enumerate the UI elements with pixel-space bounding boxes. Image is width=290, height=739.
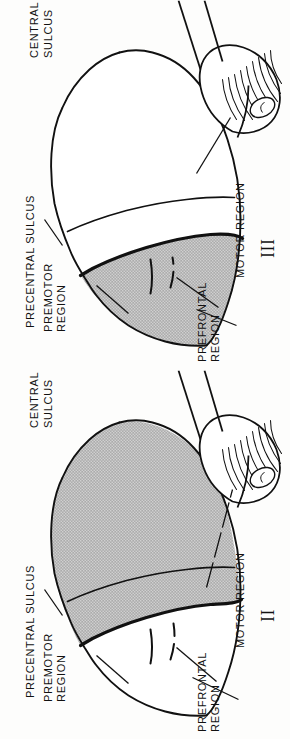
label-motor-region: MOTOR REGION	[234, 182, 246, 278]
panel-II: CENTRAL SULCUS PRECENTRAL SULCUS PREMOTO…	[0, 370, 290, 739]
label-precentral-sulcus: PRECENTRAL SULCUS	[24, 565, 36, 698]
label-prefrontal-region-line2: REGION	[209, 684, 221, 732]
brainstem-line-upper	[178, 370, 200, 439]
label-prefrontal-region-line1: PREFRONTAL	[196, 652, 208, 732]
label-central-sulcus-line2: SULCUS	[42, 9, 54, 58]
panel-III-numeral: III	[258, 239, 279, 258]
label-premotor-region-line1: PREMOTOR	[42, 633, 54, 702]
label-central-sulcus-line1: CENTRAL	[28, 372, 40, 428]
label-central-sulcus-line1: CENTRAL	[28, 2, 40, 58]
panel-III: CENTRAL SULCUS PRECENTRAL SULCUS PREMOTO…	[0, 0, 290, 369]
figure-canvas: CENTRAL SULCUS PRECENTRAL SULCUS PREMOTO…	[0, 0, 290, 739]
label-premotor-region-line2: REGION	[55, 284, 67, 332]
label-central-sulcus-line2: SULCUS	[42, 379, 54, 428]
label-prefrontal-region-line1: PREFRONTAL	[196, 282, 208, 362]
label-premotor-region-line2: REGION	[55, 654, 67, 702]
label-premotor-region-line1: PREMOTOR	[42, 263, 54, 332]
label-precentral-sulcus: PRECENTRAL SULCUS	[24, 195, 36, 328]
panel-II-numeral: II	[258, 609, 279, 622]
label-motor-region: MOTOR REGION	[234, 552, 246, 648]
brainstem-line-upper	[178, 0, 200, 69]
label-prefrontal-region-line2: REGION	[209, 314, 221, 362]
